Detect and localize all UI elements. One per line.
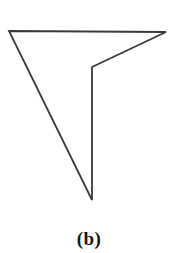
figure-panel: (b) (0, 0, 178, 253)
polygon-figure-canvas (0, 0, 178, 253)
figure-caption-label: (b) (0, 228, 178, 250)
figure-background (0, 0, 178, 253)
